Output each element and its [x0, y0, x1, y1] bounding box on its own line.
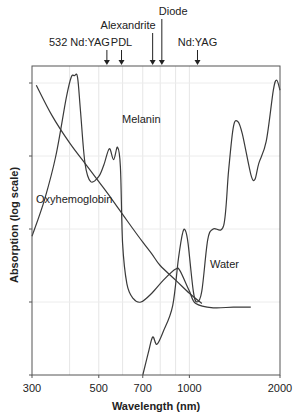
absorption-chart: 30050070010002000 532 Nd:YAGPDLAlexandri… [0, 0, 302, 418]
x-axis-title: Wavelength (nm) [112, 400, 201, 412]
water-label: Water [210, 258, 239, 270]
oxyhemoglobin-label: Oxyhemoglobin [36, 193, 112, 205]
curve-labels: MelaninOxyhemoglobinWater [36, 113, 239, 270]
x-tick-label: 1000 [177, 382, 201, 394]
x-tick-label: 2000 [268, 382, 292, 394]
laser-label: 532 Nd:YAG [49, 36, 110, 48]
water-curve [143, 80, 280, 375]
laser-markers: 532 Nd:YAGPDLAlexandriteDiodeNd:YAG [49, 5, 217, 65]
arrow-down-icon [119, 60, 125, 65]
arrow-down-icon [194, 60, 200, 65]
arrow-down-icon [159, 60, 165, 65]
x-tick-label: 300 [23, 382, 41, 394]
x-tick-label: 700 [134, 382, 152, 394]
oxyhemoglobin-curve [32, 74, 251, 308]
arrow-down-icon [104, 60, 110, 65]
y-axis-title: Absorption (log scale) [8, 167, 20, 283]
laser-label: Nd:YAG [178, 36, 218, 48]
laser-label: PDL [111, 36, 132, 48]
axis-ticks: 30050070010002000 [23, 83, 292, 394]
melanin-label: Melanin [122, 113, 161, 125]
arrow-down-icon [150, 60, 156, 65]
x-tick-label: 500 [90, 382, 108, 394]
laser-label: Diode [159, 5, 188, 17]
laser-label: Alexandrite [101, 19, 156, 31]
